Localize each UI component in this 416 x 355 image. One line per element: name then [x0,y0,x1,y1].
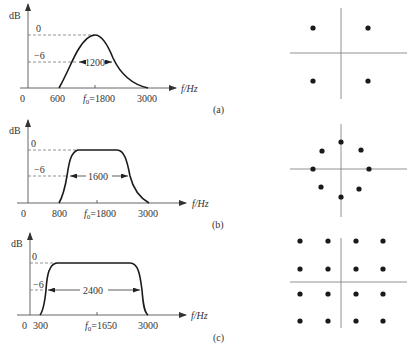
constellation-point [358,147,363,152]
constellation-point [325,291,330,296]
constellation-point [310,166,315,171]
constellation-point [353,291,358,296]
origin-label-b: 0 [21,208,26,219]
constellation-16qam [290,238,407,328]
constellation-point [319,148,324,153]
y-axis-label-a: dB [9,10,21,21]
origin-label-c: 0 [22,320,27,331]
constellation-point [353,238,358,243]
constellation-point [297,318,302,323]
constellation-point [380,291,385,296]
modem-spectra-figure: dB f/Hz 0 0 −6 1200 600 f0=1800 3000 (a)… [0,0,416,355]
level-6-label-c: −6 [33,279,44,290]
constellation-point [356,186,361,191]
tick-high-a: 3000 [137,93,157,104]
center-freq-b: f0=1800 [84,208,116,221]
level-6-label-b: −6 [34,164,45,175]
center-freq-a: f0=1800 [83,93,115,106]
origin-label-a: 0 [20,93,25,104]
caption-b: (b) [212,219,224,231]
level-0-label-c: 0 [32,251,37,262]
center-freq-c: f0=1650 [85,320,117,333]
caption-a: (a) [213,104,224,116]
constellation-point [338,194,343,199]
constellation-point [366,166,371,171]
constellation-point [297,291,302,296]
bandwidth-label-a: 1200 [85,57,105,68]
constellation-point [380,266,385,271]
tick-high-b: 3000 [138,208,158,219]
y-axis-label-b: dB [9,125,21,136]
bandwidth-label-b: 1600 [88,171,108,182]
constellation-point [380,318,385,323]
level-6-label-a: −6 [34,50,45,61]
constellation-point [297,238,302,243]
constellation-point [353,266,358,271]
constellation-point [310,25,315,30]
constellation-point [325,318,330,323]
spectrum-panel-a: dB f/Hz 0 0 −6 1200 600 f0=1800 3000 (a) [9,4,224,116]
constellation-point [365,25,370,30]
tick-low-a: 600 [50,93,65,104]
constellation-point [325,266,330,271]
spectrum-panel-b: dB f/Hz 0 0 −6 1600 800 f0=1800 3000 (b) [9,120,224,231]
caption-c: (c) [213,332,224,344]
x-axis-label-b: f/Hz [192,198,209,209]
constellation-point [318,184,323,189]
tick-low-b: 800 [52,208,67,219]
level-0-label-b: 0 [31,138,36,149]
constellation-point [353,318,358,323]
x-axis-label-c: f/Hz [191,310,208,321]
spectrum-panel-c: dB f/Hz 0 0 −6 2400 300 f0=1650 3000 (c) [11,233,224,344]
qam-grid [297,238,385,323]
x-axis-label-a: f/Hz [181,83,198,94]
constellation-point [310,78,315,83]
constellation-point [380,238,385,243]
tick-low-c: 300 [33,320,48,331]
bandwidth-label-c: 2400 [83,285,103,296]
constellation-point [365,78,370,83]
constellation-point [338,139,343,144]
tick-high-c: 3000 [138,320,158,331]
constellation-point [297,266,302,271]
constellation-qpsk [290,8,407,99]
level-0-label-a: 0 [36,23,41,34]
y-axis-label-c: dB [11,238,23,249]
constellation-point [325,238,330,243]
constellation-8psk [290,124,407,217]
